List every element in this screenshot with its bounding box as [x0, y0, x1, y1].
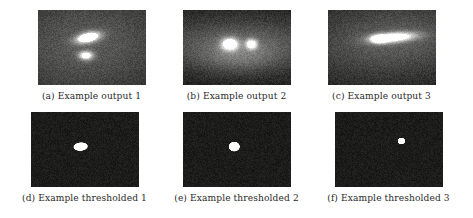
caption-d: (d) Example thresholded 1	[22, 193, 147, 204]
example-output-2-image	[183, 10, 291, 85]
figure-panel-f: (f) Example thresholded 3	[313, 112, 465, 204]
example-output-3-image	[328, 10, 436, 85]
caption-b: (b) Example output 2	[187, 91, 287, 102]
caption-e: (e) Example thresholded 2	[174, 193, 299, 204]
caption-c: (c) Example output 3	[332, 91, 431, 102]
outputs-row: (a) Example output 1 (b) Example output …	[0, 10, 473, 102]
thresholded-row: (d) Example thresholded 1 (e) Example th…	[0, 112, 473, 204]
caption-a: (a) Example output 1	[42, 91, 141, 102]
figure-panel-e: (e) Example thresholded 2	[161, 112, 313, 204]
figure-panel-a: (a) Example output 1	[19, 10, 164, 102]
example-output-1-image	[38, 10, 146, 85]
example-thresholded-2-image	[183, 112, 291, 187]
figure-grid: (a) Example output 1 (b) Example output …	[0, 0, 473, 218]
figure-panel-d: (d) Example thresholded 1	[9, 112, 161, 204]
caption-f: (f) Example thresholded 3	[327, 193, 450, 204]
figure-panel-c: (c) Example output 3	[309, 10, 454, 102]
example-thresholded-3-image	[335, 112, 443, 187]
example-thresholded-1-image	[31, 112, 139, 187]
figure-panel-b: (b) Example output 2	[164, 10, 309, 102]
